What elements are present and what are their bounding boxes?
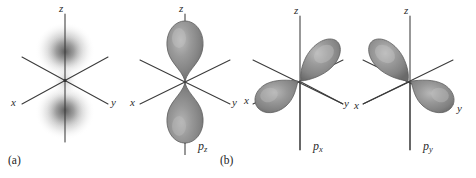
x-axis-front-segment — [363, 82, 409, 104]
pz-upper-lobe — [167, 21, 203, 81]
axis-label-y: y — [344, 98, 349, 109]
axis-label-x: x — [244, 95, 249, 106]
orbital-label-px-subscript: x — [319, 144, 323, 154]
axis-label-y: y — [457, 103, 462, 114]
pz-lower-highlight — [172, 116, 186, 136]
axis-label-y: y — [232, 97, 237, 108]
panel-a-electron-cloud: z x y (a) — [0, 0, 130, 178]
axis-label-y: y — [111, 97, 116, 108]
origin-point — [64, 79, 67, 82]
y-axis-front-segment — [301, 82, 343, 104]
orbital-label-pz: pz — [198, 140, 207, 154]
orbital-label-px: px — [313, 140, 323, 154]
orbital-label-pz-subscript: z — [204, 144, 207, 154]
pz-lower-lobe — [167, 83, 203, 143]
axis-label-x: x — [11, 97, 16, 108]
axis-lines — [22, 14, 108, 142]
axis-label-x: x — [130, 97, 135, 108]
panel-py-orbital: z x y py — [353, 0, 476, 178]
pz-upper-highlight — [172, 28, 186, 48]
panel-pz-svg — [128, 0, 246, 178]
orbital-label-py-subscript: y — [429, 144, 433, 154]
panel-a-svg — [0, 0, 130, 178]
axis-label-z: z — [179, 3, 183, 14]
panel-px-orbital: z x y px (b) — [243, 0, 358, 178]
axis-label-x: x — [354, 100, 359, 111]
axis-label-z: z — [59, 3, 63, 14]
axis-lines — [253, 16, 343, 150]
axis-label-z: z — [404, 5, 408, 16]
panel-pz-orbital: z x y pz — [128, 0, 246, 178]
panel-label-a: (a) — [8, 155, 21, 167]
orbital-figure: z x y (a) — [0, 0, 476, 178]
panel-label-b: (b) — [220, 155, 233, 167]
panel-py-svg — [353, 0, 476, 178]
orbital-label-py: py — [423, 140, 433, 154]
panel-px-svg — [243, 0, 358, 178]
axis-label-z: z — [294, 5, 298, 16]
